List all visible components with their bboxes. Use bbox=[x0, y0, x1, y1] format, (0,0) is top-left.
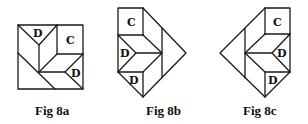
label-c: C bbox=[127, 16, 136, 29]
label-d: D bbox=[33, 27, 43, 40]
parallelogram-edge bbox=[39, 54, 57, 72]
label-d: D bbox=[129, 74, 139, 87]
figure-8b: C D D Fig 8b bbox=[118, 8, 186, 118]
label-d: D bbox=[120, 47, 130, 60]
caption-8b: Fig 8b bbox=[146, 103, 181, 118]
label-c: C bbox=[273, 16, 282, 29]
figure-8a: D C D Fig 8a bbox=[18, 25, 83, 118]
lower-diagonal bbox=[18, 53, 55, 89]
caption-8c: Fig 8c bbox=[243, 103, 277, 118]
label-d: D bbox=[268, 74, 278, 87]
tangram-figures: D C D Fig 8a C D D Fig 8b C D D Fig 8c bbox=[0, 0, 308, 124]
label-d: D bbox=[277, 47, 287, 60]
caption-8a: Fig 8a bbox=[35, 103, 70, 118]
label-d: D bbox=[71, 67, 81, 80]
label-c: C bbox=[66, 34, 75, 47]
figure-8c: C D D Fig 8c bbox=[220, 8, 290, 118]
